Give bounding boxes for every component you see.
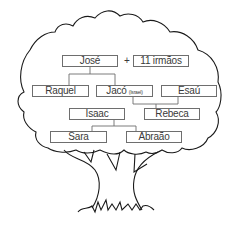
person-note: (Israel) [129,90,143,95]
connector-jose-parents [69,67,115,85]
person-name: José [80,56,100,66]
person-name: Esaú [178,86,200,96]
connector-jaco-esau [133,97,178,108]
person-name: Raquel [45,86,76,96]
tree-trunk-left [64,150,99,208]
person-box-esau: Esaú [161,85,217,97]
person-name: Rebeca [155,109,188,119]
person-box-raquel: Raquel [32,85,89,97]
person-box-jose: José [62,55,118,67]
person-name: 11 irmãos [140,56,181,66]
family-tree-diagram: José + 11 irmãos Raquel Jacó (Israel) Es… [0,0,234,228]
person-box-abraao: Abraão [126,131,182,143]
connector-isaac-parents [92,120,136,131]
canopy-notch [134,154,147,172]
person-box-11-irmaos: 11 irmãos [133,55,189,67]
person-box-rebeca: Rebeca [144,108,200,120]
tree-canopy-outline [18,11,221,154]
tree-roots [78,200,154,212]
canopy-notch [107,152,120,170]
person-box-sara: Sara [50,131,107,143]
person-name: Jacó [106,86,126,96]
person-box-jaco: Jacó (Israel) [96,85,153,97]
canopy-notch [84,150,94,162]
person-name: Sara [68,132,88,142]
person-name: Abraão [138,132,169,142]
person-name: Isaac [86,109,109,119]
person-box-isaac: Isaac [69,108,125,120]
tree-trunk-right [133,152,158,210]
plus-sign: + [124,56,130,66]
